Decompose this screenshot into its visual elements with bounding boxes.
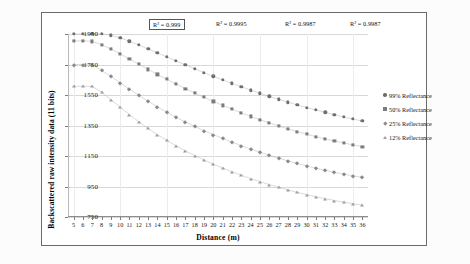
legend-item-4[interactable]: 12% Reflectance <box>381 130 469 144</box>
legend-label: 99% Reflectance <box>389 92 432 99</box>
x-tick-mark-9 <box>111 217 112 220</box>
data-point <box>127 113 131 116</box>
data-point <box>258 118 261 121</box>
x-tick-mark-11 <box>129 217 130 220</box>
x-tick-mark-33 <box>334 217 335 220</box>
data-point <box>249 115 252 118</box>
chart-figure: R² = 0.999R² = 0.9995R² = 0.9987R² = 0.9… <box>0 0 470 264</box>
data-point <box>249 177 253 180</box>
r-squared-label-1: R² = 0.999 <box>149 19 185 30</box>
x-tick-mark-25 <box>260 217 261 220</box>
y-tick-mark-1550 <box>65 95 68 96</box>
legend-marker-circle-icon <box>381 93 389 96</box>
r-squared-label-4: R² = 0.9987 <box>347 19 384 28</box>
x-tick-mark-23 <box>241 217 242 220</box>
x-tick-mark-20 <box>213 217 214 220</box>
data-point <box>202 96 205 99</box>
legend-item-1[interactable]: 99% Reflectance <box>381 88 469 102</box>
data-point <box>230 170 234 173</box>
x-tick-mark-10 <box>120 217 121 220</box>
x-tick-label-36: 36 <box>354 221 370 228</box>
data-point <box>165 78 168 81</box>
x-tick-mark-6 <box>83 217 84 220</box>
x-tick-mark-36 <box>362 217 363 220</box>
data-point <box>360 204 364 207</box>
x-tick-mark-15 <box>167 217 168 220</box>
data-point <box>314 195 318 198</box>
y-tick-label-950: 950 <box>58 183 98 191</box>
data-point <box>81 85 85 88</box>
data-point <box>156 73 159 76</box>
data-point <box>91 40 94 43</box>
y-tick-mark-1750 <box>65 65 68 66</box>
data-point <box>268 121 271 124</box>
x-tick-mark-8 <box>102 217 103 220</box>
data-point <box>193 154 197 157</box>
data-point <box>147 68 150 71</box>
y-tick-label-1750: 1750 <box>58 61 98 69</box>
y-tick-mark-1150 <box>65 156 68 157</box>
legend-marker-diamond-icon <box>381 122 389 125</box>
data-point <box>211 163 215 166</box>
trend-lines <box>68 34 368 217</box>
x-tick-mark-21 <box>223 217 224 220</box>
data-point <box>137 120 141 123</box>
data-point <box>174 144 178 147</box>
data-point <box>221 167 225 170</box>
y-tick-mark-1350 <box>65 126 68 127</box>
x-tick-mark-35 <box>353 217 354 220</box>
x-tick-mark-27 <box>279 217 280 220</box>
x-tick-mark-19 <box>204 217 205 220</box>
data-point <box>258 180 262 183</box>
data-point <box>286 127 289 130</box>
x-axis-title-text: Distance (m) <box>196 233 240 242</box>
x-tick-mark-5 <box>74 217 75 220</box>
y-tick-label-1350: 1350 <box>58 122 98 130</box>
legend-label: 12% Reflectance <box>389 134 432 141</box>
data-point <box>305 193 309 196</box>
data-point <box>72 85 76 88</box>
data-point <box>184 87 187 90</box>
data-point <box>202 158 206 161</box>
data-point <box>333 139 336 142</box>
data-point <box>155 133 159 136</box>
legend-item-3[interactable]: 25% Reflectance <box>381 116 469 130</box>
x-tick-mark-18 <box>195 217 196 220</box>
gridline-y-750 <box>68 217 368 218</box>
data-point <box>183 149 187 152</box>
x-tick-mark-32 <box>325 217 326 220</box>
y-axis-title-text: Backscattered raw intensity data (11 bit… <box>47 90 56 228</box>
data-point <box>137 63 140 66</box>
data-point <box>165 139 169 142</box>
y-tick-mark-750 <box>65 217 68 218</box>
legend-marker-triangle-icon <box>381 136 389 139</box>
data-point <box>109 98 113 101</box>
legend-item-2[interactable]: 50% Reflectance <box>381 102 469 116</box>
data-point <box>314 135 317 138</box>
data-point <box>146 127 150 130</box>
x-tick-mark-12 <box>139 217 140 220</box>
trend-line-1 <box>74 41 363 147</box>
data-point <box>267 183 271 186</box>
x-tick-mark-7 <box>92 217 93 220</box>
data-point <box>239 174 243 177</box>
chart-legend: 99% Reflectance50% Reflectance25% Reflec… <box>381 88 469 144</box>
data-point <box>128 57 131 60</box>
data-point <box>305 133 308 136</box>
data-point <box>90 85 94 88</box>
plot-area <box>68 34 368 217</box>
x-tick-mark-31 <box>316 217 317 220</box>
x-tick-mark-34 <box>344 217 345 220</box>
data-point <box>342 141 345 144</box>
data-point <box>230 108 233 111</box>
data-point <box>240 111 243 114</box>
data-point <box>100 91 104 94</box>
data-point <box>81 39 84 42</box>
legend-label: 25% Reflectance <box>389 120 432 127</box>
data-point <box>323 197 327 200</box>
x-axis-title: Distance (m) <box>68 233 368 242</box>
data-point <box>193 91 196 94</box>
x-tick-mark-26 <box>269 217 270 220</box>
x-tick-mark-28 <box>288 217 289 220</box>
x-tick-mark-30 <box>307 217 308 220</box>
